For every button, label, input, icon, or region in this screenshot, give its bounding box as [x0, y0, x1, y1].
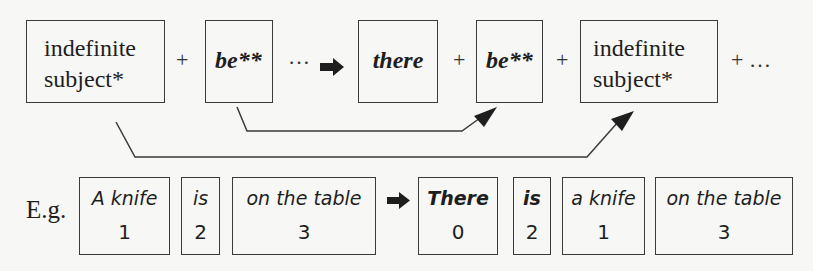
- example-box-there: There 0: [418, 177, 498, 255]
- example-word: a knife: [563, 187, 644, 209]
- example-word: There: [419, 187, 497, 209]
- box-label: be**: [215, 45, 272, 76]
- box-line2: subject*: [44, 64, 164, 95]
- example-num: 0: [419, 220, 497, 244]
- example-num: 3: [656, 220, 792, 244]
- example-box-a-knife: A knife 1: [79, 177, 170, 255]
- box-line1: indefinite: [593, 33, 717, 64]
- example-num: 2: [514, 220, 550, 244]
- box-be-target: be**: [476, 20, 543, 103]
- example-box-on-the-table: on the table 3: [232, 177, 376, 255]
- example-box-on-the-table: on the table 3: [655, 177, 793, 255]
- box-label: there: [359, 45, 437, 76]
- example-num: 1: [80, 220, 169, 244]
- box-label: be**: [486, 45, 542, 76]
- example-num: 2: [182, 220, 219, 244]
- box-indefinite-subject-source: indefinite subject*: [26, 20, 165, 103]
- arrow-be-to-be: [237, 107, 497, 131]
- plus-operator: +: [176, 47, 188, 73]
- arrow-subject-to-subject: [116, 111, 634, 157]
- example-label: E.g.: [26, 196, 66, 224]
- box-there: there: [358, 20, 438, 103]
- plus-operator: +: [556, 47, 568, 73]
- example-word: on the table: [233, 187, 375, 209]
- example-word: on the table: [656, 187, 792, 209]
- transform-arrow-icon: [387, 192, 410, 209]
- trailing-ellipsis: + …: [731, 47, 771, 73]
- box-line1: indefinite: [44, 33, 164, 64]
- plus-operator: +: [453, 47, 465, 73]
- box-line2: subject*: [593, 64, 717, 95]
- example-box-is: is 2: [181, 177, 220, 255]
- example-box-a-knife: a knife 1: [562, 177, 645, 255]
- transform-arrow-icon: [320, 58, 344, 76]
- ellipsis: …: [288, 44, 310, 70]
- example-box-is: is 2: [513, 177, 551, 255]
- example-num: 1: [563, 220, 644, 244]
- example-word: is: [514, 187, 550, 209]
- box-indefinite-subject-target: indefinite subject*: [580, 20, 718, 103]
- box-be-source: be**: [205, 20, 273, 103]
- example-num: 3: [233, 220, 375, 244]
- example-word: A knife: [80, 187, 169, 209]
- example-word: is: [182, 187, 219, 209]
